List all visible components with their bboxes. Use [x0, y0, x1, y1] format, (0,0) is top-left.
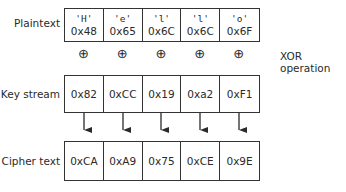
arrow-down-icon	[84, 113, 239, 130]
ciphertext-cell: 0x75	[143, 142, 182, 180]
ciphertext-cell: 0x9E	[220, 142, 259, 180]
ciphertext-cell: 0xA9	[104, 142, 143, 180]
ciphertext-label: Cipher text	[0, 155, 60, 167]
ciphertext-cell: 0xCA	[65, 142, 104, 180]
ciphertext-row: 0xCA 0xA9 0x75 0xCE 0x9E	[64, 141, 260, 181]
ciphertext-cell: 0xCE	[181, 142, 220, 180]
